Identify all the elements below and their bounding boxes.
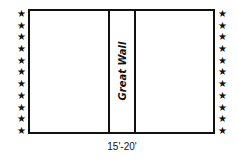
star-icon: ★ — [16, 125, 26, 137]
star-icon: ★ — [217, 8, 227, 20]
star-icon: ★ — [16, 31, 26, 43]
star-icon: ★ — [217, 20, 227, 32]
star-icon: ★ — [16, 78, 26, 90]
right-star-column: ★★★★★★★★★★★ — [217, 8, 227, 137]
star-icon: ★ — [217, 31, 227, 43]
star-icon: ★ — [16, 90, 26, 102]
left-star-column: ★★★★★★★★★★★ — [16, 8, 26, 137]
star-icon: ★ — [217, 113, 227, 125]
star-icon: ★ — [16, 55, 26, 67]
star-icon: ★ — [217, 66, 227, 78]
star-icon: ★ — [16, 66, 26, 78]
star-icon: ★ — [16, 102, 26, 114]
star-icon: ★ — [217, 125, 227, 137]
great-wall-label: Great Wall — [117, 42, 128, 101]
star-icon: ★ — [16, 8, 26, 20]
star-icon: ★ — [16, 113, 26, 125]
star-icon: ★ — [16, 43, 26, 55]
star-icon: ★ — [217, 43, 227, 55]
star-icon: ★ — [16, 20, 26, 32]
star-icon: ★ — [217, 78, 227, 90]
star-icon: ★ — [217, 102, 227, 114]
dimension-label: 15'-20' — [107, 141, 136, 152]
star-icon: ★ — [217, 55, 227, 67]
star-icon: ★ — [217, 90, 227, 102]
